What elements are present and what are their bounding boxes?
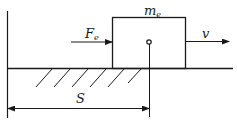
force-label-main: F <box>85 26 94 41</box>
mass-label-subscript: e <box>156 10 161 19</box>
force-label-subscript: e <box>94 33 99 42</box>
ground-hatching <box>36 69 141 87</box>
mass-label: me <box>144 4 161 19</box>
mass-label-main: m <box>144 3 156 18</box>
velocity-label: v <box>202 27 209 40</box>
force-label: Fe <box>85 27 99 42</box>
distance-label: S <box>76 92 85 105</box>
diagram-canvas <box>0 0 237 130</box>
center-of-mass-marker <box>147 40 151 44</box>
